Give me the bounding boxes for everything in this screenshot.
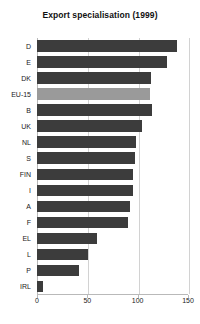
y-label-row: I: [0, 183, 34, 199]
chart-title: Export specialisation (1999): [0, 10, 200, 20]
y-label-row: IRL: [0, 279, 34, 295]
y-label-row: FIN: [0, 167, 34, 183]
y-label-row: P: [0, 263, 34, 279]
x-axis-label-100: 100: [132, 297, 144, 304]
y-label-row: E: [0, 54, 34, 70]
bar-row: [37, 150, 188, 166]
bar-dk: [37, 72, 151, 84]
bar-fin: [37, 169, 133, 181]
bar-row: [37, 86, 188, 102]
bar-row: [37, 70, 188, 86]
bar-eu-15: [37, 88, 150, 100]
x-tick-mark-0: [37, 295, 38, 298]
y-label-row: L: [0, 247, 34, 263]
y-axis-label-el: EL: [22, 235, 31, 242]
x-axis-label-150: 150: [182, 297, 194, 304]
x-tick-mark-50: [87, 295, 88, 298]
y-label-row: DK: [0, 70, 34, 86]
bar-s: [37, 152, 135, 164]
gridline-150: [189, 38, 190, 294]
y-label-row: EL: [0, 231, 34, 247]
y-axis-category-labels: DEDKEU-15BUKNLSFINIAFELLPIRL: [0, 38, 34, 295]
bar-row: [37, 231, 188, 247]
bar-a: [37, 201, 130, 213]
bar-l: [37, 249, 88, 261]
y-axis-label-a: A: [26, 203, 31, 210]
y-axis-label-l: L: [27, 251, 31, 258]
y-axis-label-d: D: [26, 43, 31, 50]
bar-e: [37, 56, 167, 68]
bar-row: [37, 102, 188, 118]
x-tick-mark-150: [188, 295, 189, 298]
bar-row: [37, 215, 188, 231]
y-axis-label-uk: UK: [21, 123, 31, 130]
bar-row: [37, 199, 188, 215]
y-label-row: B: [0, 102, 34, 118]
y-axis-label-fin: FIN: [20, 171, 31, 178]
bar-row: [37, 134, 188, 150]
y-label-row: S: [0, 150, 34, 166]
bar-row: [37, 167, 188, 183]
y-label-row: D: [0, 38, 34, 54]
bar-irl: [37, 281, 43, 293]
y-axis-label-dk: DK: [21, 75, 31, 82]
bar-f: [37, 217, 128, 229]
bar-row: [37, 247, 188, 263]
y-axis-label-eu-15: EU-15: [11, 91, 31, 98]
x-axis-tick-labels: 050100150: [0, 297, 200, 311]
bar-row: [37, 54, 188, 70]
bar-row: [37, 263, 188, 279]
x-axis-label-50: 50: [83, 297, 91, 304]
y-label-row: NL: [0, 134, 34, 150]
y-axis-label-irl: IRL: [20, 283, 31, 290]
bar-d: [37, 40, 177, 52]
y-label-row: UK: [0, 118, 34, 134]
y-label-row: A: [0, 199, 34, 215]
y-axis-label-e: E: [26, 59, 31, 66]
bar-row: [37, 38, 188, 54]
y-label-row: EU-15: [0, 86, 34, 102]
y-label-row: F: [0, 215, 34, 231]
bar-nl: [37, 136, 136, 148]
bar-i: [37, 185, 133, 197]
y-axis-label-p: P: [26, 267, 31, 274]
bar-row: [37, 118, 188, 134]
bars-layer: [37, 38, 188, 295]
y-axis-label-nl: NL: [22, 139, 31, 146]
bar-row: [37, 279, 188, 295]
x-tick-mark-100: [138, 295, 139, 298]
bar-el: [37, 233, 97, 245]
x-axis-label-0: 0: [35, 297, 39, 304]
bar-row: [37, 183, 188, 199]
chart-container: Export specialisation (1999) DEDKEU-15BU…: [0, 0, 200, 324]
y-axis-label-b: B: [26, 107, 31, 114]
bar-b: [37, 104, 152, 116]
y-axis-label-s: S: [26, 155, 31, 162]
bar-uk: [37, 120, 142, 132]
y-axis-label-i: I: [29, 187, 31, 194]
y-axis-label-f: F: [27, 219, 31, 226]
bar-p: [37, 265, 79, 277]
